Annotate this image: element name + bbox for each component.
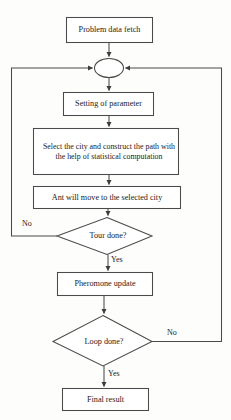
- node-merge-shape: [95, 59, 124, 78]
- flowchart-canvas: Problem data fetch Setting of parameter …: [0, 0, 231, 420]
- edge-label-tour-no: No: [22, 219, 32, 228]
- edge-label-tour-yes: Yes: [111, 255, 123, 264]
- node-final-shape: [63, 389, 149, 411]
- edge-label-loop-yes: Yes: [108, 369, 120, 378]
- node-start-shape: [67, 18, 153, 43]
- node-select-shape: [34, 129, 179, 175]
- edge-label-loop-no: No: [167, 328, 177, 337]
- node-move-shape: [34, 187, 181, 209]
- node-pheromone-shape: [58, 273, 153, 296]
- node-setting-shape: [64, 93, 154, 116]
- node-tour-shape: [57, 218, 152, 255]
- flowchart-graphics: [0, 0, 231, 420]
- node-loop-shape: [53, 316, 152, 367]
